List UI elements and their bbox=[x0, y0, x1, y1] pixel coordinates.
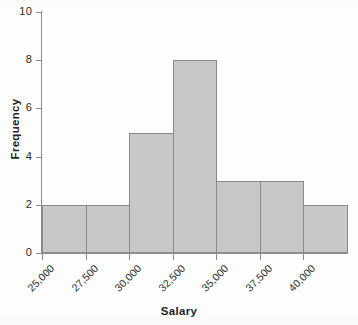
x-axis-title: Salary bbox=[0, 305, 358, 317]
scan-artifact bbox=[0, 0, 358, 7]
x-axis-tick-mark bbox=[129, 254, 130, 260]
x-axis-tick-label: 25,000 bbox=[20, 262, 57, 299]
y-axis-tick-mark bbox=[36, 108, 41, 109]
histogram-bar bbox=[303, 205, 348, 253]
y-axis-tick-label: 2 bbox=[2, 198, 32, 210]
plot-area bbox=[42, 12, 347, 253]
histogram-bar bbox=[86, 205, 131, 253]
histogram-chart: 0246810 25,00027,50030,00032,50035,00037… bbox=[0, 0, 358, 325]
x-axis-tick-mark bbox=[86, 254, 87, 260]
x-axis-tick-label: 40,000 bbox=[281, 262, 318, 299]
x-axis-tick-label: 32,500 bbox=[150, 262, 187, 299]
x-axis-tick-label: 35,000 bbox=[194, 262, 231, 299]
histogram-bar bbox=[216, 181, 261, 253]
x-axis-tick-label: 37,500 bbox=[238, 262, 275, 299]
histogram-bar bbox=[173, 60, 218, 253]
y-axis-tick-mark bbox=[36, 205, 41, 206]
x-axis-tick-mark bbox=[216, 254, 217, 260]
x-axis-tick-mark bbox=[303, 254, 304, 260]
y-axis-tick-label: 10 bbox=[2, 5, 32, 17]
y-axis-tick-mark bbox=[36, 253, 41, 254]
y-axis-tick-mark bbox=[36, 157, 41, 158]
y-axis-tick-label: 0 bbox=[2, 246, 32, 258]
x-axis-tick-mark bbox=[260, 254, 261, 260]
histogram-bar bbox=[260, 181, 305, 253]
histogram-bar bbox=[42, 205, 87, 253]
y-axis-tick-mark bbox=[36, 12, 41, 13]
y-axis-tick-label: 8 bbox=[2, 53, 32, 65]
x-axis-line bbox=[41, 253, 348, 254]
x-axis-tick-mark bbox=[173, 254, 174, 260]
y-axis-title: Frequency bbox=[9, 69, 21, 189]
x-axis-tick-label: 30,000 bbox=[107, 262, 144, 299]
x-axis-tick-label: 27,500 bbox=[63, 262, 100, 299]
x-axis-tick-mark bbox=[42, 254, 43, 260]
y-axis-tick-mark bbox=[36, 60, 41, 61]
histogram-bar bbox=[129, 133, 174, 254]
